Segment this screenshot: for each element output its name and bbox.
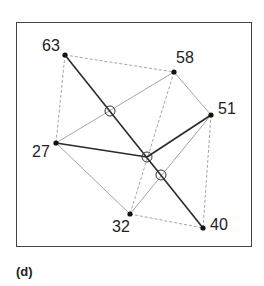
- node-label-32: 32: [112, 219, 130, 235]
- node-label-63: 63: [42, 38, 60, 54]
- node-label-40: 40: [210, 217, 228, 233]
- node-label-58: 58: [176, 50, 194, 66]
- diagram-frame: [17, 23, 252, 247]
- node-label-51: 51: [218, 101, 236, 117]
- figure-caption: (d): [16, 264, 33, 279]
- node-label-27: 27: [32, 144, 50, 160]
